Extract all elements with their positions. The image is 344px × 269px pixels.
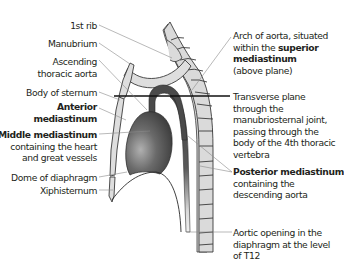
label-text: Arch of aorta, situated bbox=[233, 30, 328, 42]
heart bbox=[126, 112, 172, 175]
label-text: of T12 bbox=[233, 250, 330, 262]
label-emphasis: mediastinum bbox=[233, 53, 328, 65]
label-ascending-aorta: Ascending thoracic aorta bbox=[38, 56, 97, 79]
label-text: through the bbox=[233, 103, 335, 115]
label-arch-of-aorta: Arch of aorta, situated within the super… bbox=[233, 30, 328, 76]
label-text: within the bbox=[233, 42, 278, 53]
label-aortic-opening: Aortic opening in the diaphragm at the l… bbox=[233, 227, 330, 262]
label-text: mediastinum bbox=[33, 113, 97, 125]
label-text: descending aorta bbox=[233, 189, 344, 201]
label-text: Xiphisternum bbox=[40, 185, 97, 196]
label-text: (above plane) bbox=[233, 65, 328, 77]
label-dome-of-diaphragm: Dome of diaphragm bbox=[11, 172, 97, 184]
label-text: Manubrium bbox=[48, 38, 97, 49]
label-text: 1st rib bbox=[70, 20, 97, 31]
label-text: Anterior bbox=[33, 101, 97, 113]
label-text: diaphragm at the level bbox=[233, 239, 330, 251]
label-text: Transverse plane bbox=[233, 91, 335, 103]
label-emphasis: superior bbox=[278, 42, 319, 53]
label-posterior-mediastinum: Posterior mediastinum containing the des… bbox=[233, 166, 344, 201]
label-body-of-sternum: Body of sternum bbox=[26, 87, 97, 99]
label-text: Dome of diaphragm bbox=[11, 172, 97, 183]
label-text: vertebra bbox=[233, 149, 335, 161]
label-text: containing the heart bbox=[0, 141, 97, 153]
label-text: containing the bbox=[233, 178, 344, 190]
label-transverse-plane: Transverse plane through the manubrioste… bbox=[233, 91, 335, 160]
label-manubrium: Manubrium bbox=[48, 38, 97, 50]
label-text: body of the 4th thoracic bbox=[233, 137, 335, 149]
label-heading: Middle mediastinum bbox=[0, 129, 97, 141]
label-text: Ascending bbox=[38, 56, 97, 68]
label-middle-mediastinum: Middle mediastinum containing the heart … bbox=[0, 129, 97, 164]
diaphragm bbox=[112, 172, 181, 232]
label-text: passing through the bbox=[233, 126, 335, 138]
label-text: Body of sternum bbox=[26, 87, 97, 98]
label-anterior-mediastinum: Anterior mediastinum bbox=[33, 101, 97, 124]
label-heading: Posterior mediastinum bbox=[233, 166, 344, 178]
label-text: thoracic aorta bbox=[38, 68, 97, 80]
label-text: manubriosternal joint, bbox=[233, 114, 335, 126]
label-text: Aortic opening in the bbox=[233, 227, 330, 239]
label-first-rib: 1st rib bbox=[70, 20, 97, 32]
label-text: and great vessels bbox=[0, 152, 97, 164]
label-xiphisternum: Xiphisternum bbox=[40, 185, 97, 197]
